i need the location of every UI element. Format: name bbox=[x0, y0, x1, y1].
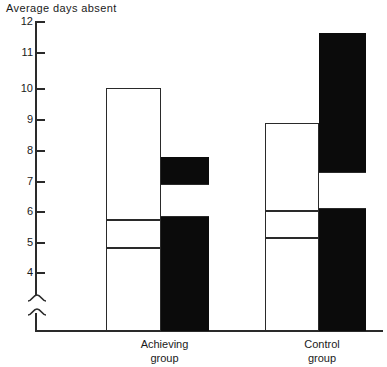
bar-control-open-mark-1 bbox=[265, 210, 319, 212]
bar-control-open bbox=[265, 123, 319, 331]
x-category-label-achieving-line2: group bbox=[112, 351, 217, 365]
y-tick-label-10: 10 bbox=[13, 83, 33, 94]
y-axis-line-upper bbox=[35, 21, 37, 295]
y-tick-4 bbox=[36, 272, 45, 274]
y-tick-label-8: 8 bbox=[13, 145, 33, 156]
x-category-label-achieving-line1: Achieving bbox=[112, 337, 217, 351]
y-tick-label-7: 7 bbox=[13, 176, 33, 187]
y-tick-10 bbox=[36, 88, 45, 90]
y-tick-label-4: 4 bbox=[13, 267, 33, 278]
bar-achieving-open-mark-2 bbox=[106, 247, 161, 249]
y-tick-7 bbox=[36, 181, 45, 183]
y-tick-6 bbox=[36, 211, 45, 213]
y-tick-9 bbox=[36, 119, 45, 121]
x-category-label-control: Control group bbox=[272, 337, 372, 365]
bar-control-open-mark-2 bbox=[265, 237, 319, 239]
x-category-label-achieving: Achieving group bbox=[112, 337, 217, 365]
axis-break-icon-upper bbox=[27, 292, 47, 306]
y-axis-title: Average days absent bbox=[6, 2, 117, 14]
y-tick-12 bbox=[36, 21, 45, 23]
x-category-label-control-line1: Control bbox=[272, 337, 372, 351]
y-tick-11 bbox=[36, 52, 45, 54]
y-tick-label-9: 9 bbox=[13, 114, 33, 125]
x-category-label-control-line2: group bbox=[272, 351, 372, 365]
bar-control-filled-band bbox=[319, 172, 366, 209]
bar-achieving-filled-band bbox=[161, 184, 209, 217]
bar-achieving-open-mark-1 bbox=[106, 219, 161, 221]
y-tick-label-5: 5 bbox=[13, 237, 33, 248]
y-tick-label-12: 12 bbox=[13, 16, 33, 27]
bar-chart: Average days absent 12 11 10 9 8 7 6 5 4 bbox=[0, 0, 387, 367]
bar-achieving-open bbox=[106, 88, 161, 331]
y-tick-5 bbox=[36, 242, 45, 244]
y-tick-8 bbox=[36, 150, 45, 152]
y-tick-label-6: 6 bbox=[13, 206, 33, 217]
y-tick-label-11: 11 bbox=[13, 47, 33, 58]
axis-break-icon-lower bbox=[27, 305, 47, 319]
